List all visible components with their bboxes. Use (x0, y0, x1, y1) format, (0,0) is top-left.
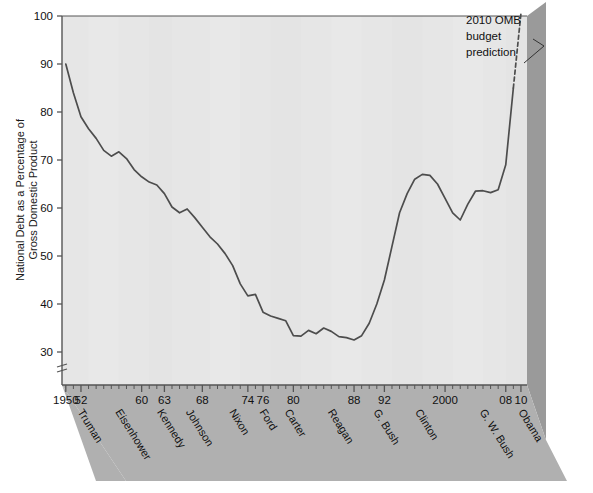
y-axis-title: National Debt as a Percentage ofGross Do… (14, 118, 39, 281)
annotation-line: prediction (466, 46, 516, 58)
y-tick-label: 30 (40, 346, 53, 358)
y-tick-label: 60 (40, 202, 53, 214)
y-tick-label: 90 (40, 58, 53, 70)
x-tick-label: 74 (241, 394, 254, 406)
x-tick-label: 76 (257, 394, 270, 406)
x-tick-label: 52 (75, 394, 88, 406)
y-tick-label: 70 (40, 154, 53, 166)
annotation-line: budget (466, 30, 502, 42)
svg-text:National Debt as a Percentage: National Debt as a Percentage of (14, 118, 26, 281)
x-tick-label: 63 (158, 394, 171, 406)
annotation-line: 2010 OMB (466, 14, 521, 26)
x-tick-label: 68 (196, 394, 209, 406)
x-tick-label: 88 (348, 394, 361, 406)
national-debt-line-chart: 3040506070809010019505260636874768088922… (0, 0, 593, 493)
x-tick-label: 10 (515, 394, 528, 406)
svg-text:Gross Domestic Product: Gross Domestic Product (27, 140, 39, 259)
y-tick-label: 40 (40, 298, 53, 310)
x-tick-label: 80 (287, 394, 300, 406)
x-tick-label: 60 (135, 394, 148, 406)
x-tick-label: 08 (499, 394, 512, 406)
chart-figure: 3040506070809010019505260636874768088922… (0, 0, 593, 493)
y-tick-label: 80 (40, 106, 53, 118)
y-tick-label: 50 (40, 250, 53, 262)
x-tick-label: 92 (378, 394, 391, 406)
x-tick-label: 2000 (432, 394, 458, 406)
y-tick-label: 100 (34, 10, 53, 22)
three-d-panels (62, 2, 567, 481)
